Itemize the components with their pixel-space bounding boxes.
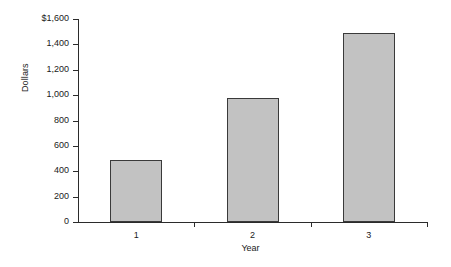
- x-axis-title-text: Year: [241, 243, 259, 253]
- x-axis-tick-label: 1: [116, 231, 156, 240]
- y-axis-line: [78, 19, 79, 223]
- y-axis-tick-label: 400: [54, 166, 69, 175]
- y-axis-tick-label: 0: [64, 217, 69, 226]
- y-axis-title: Dollars: [20, 63, 30, 92]
- y-axis-tick-label: 600: [54, 141, 69, 150]
- y-axis-tick-label: 1,000: [46, 90, 69, 99]
- x-axis-title: Year: [0, 243, 451, 253]
- y-axis-tick: [73, 95, 78, 96]
- bar-chart: Dollars 02004006008001,0001,2001,400$1,6…: [0, 0, 451, 267]
- x-axis-tick-label: 3: [349, 231, 389, 240]
- y-axis-tick: [73, 121, 78, 122]
- y-axis-tick: [73, 44, 78, 45]
- y-axis-tick-label: 1,200: [46, 65, 69, 74]
- y-axis-tick: [73, 146, 78, 147]
- x-axis-tick: [311, 222, 312, 227]
- x-axis-tick: [194, 222, 195, 227]
- bar: [227, 98, 279, 222]
- y-axis-tick: [73, 70, 78, 71]
- x-axis-tick: [427, 222, 428, 227]
- y-axis-tick: [73, 197, 78, 198]
- y-axis-tick-label: 800: [54, 116, 69, 125]
- x-axis-line: [78, 222, 427, 223]
- y-axis-tick-label: $1,600: [41, 14, 69, 23]
- x-axis-tick-label: 2: [233, 231, 273, 240]
- y-axis-tick-label: 1,400: [46, 39, 69, 48]
- bar: [110, 160, 162, 222]
- y-axis-tick: [73, 171, 78, 172]
- y-axis-tick: [73, 222, 78, 223]
- bar: [343, 33, 395, 222]
- y-axis-tick: [73, 19, 78, 20]
- y-axis-tick-label: 200: [54, 192, 69, 201]
